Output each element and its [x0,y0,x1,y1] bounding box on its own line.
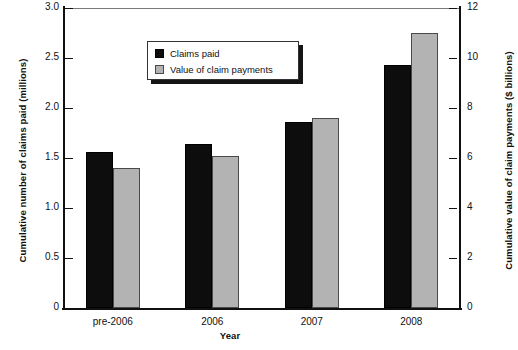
y-axis-left-tick [65,158,73,160]
x-axis-tick-label: 2008 [400,316,422,327]
y-axis-right-tick [449,308,457,310]
y-axis-left-tick [65,208,73,210]
legend-item: Claims paid [155,46,298,61]
plot-top-border [63,8,461,9]
y-axis-right-tick [449,8,457,10]
y-axis-left-tick-label: 1.0 [19,201,59,212]
bar-chart-figure: Cumulative number of claims paid (millio… [0,0,518,350]
x-axis-title: Year [0,330,460,341]
legend-box: Claims paid Value of claim payments [147,41,299,80]
bar-2006-value-of-claim-payments [212,156,239,309]
bar-pre-2006-claims-paid [86,152,113,308]
y-axis-left-tick [65,108,73,110]
y-axis-left-tick-label: 0 [19,301,59,312]
y-axis-right-tick [449,108,457,110]
y-axis-left-tick-label: 2.5 [19,51,59,62]
legend-label-claims-paid: Claims paid [170,48,220,59]
x-axis-line [62,308,462,310]
y-axis-right-tick-label: 6 [467,151,507,162]
y-axis-left-tick-label: 2.0 [19,101,59,112]
y-axis-left-tick [65,258,73,260]
legend-label-value-of-claim-payments: Value of claim payments [170,64,273,75]
legend-swatch-claims-paid [155,49,164,58]
y-axis-right-tick-label: 0 [467,301,507,312]
legend-item: Value of claim payments [155,62,298,77]
y-axis-right-tick-label: 4 [467,201,507,212]
y-axis-right-tick-label: 12 [467,1,507,12]
x-axis-tick-label: 2006 [201,316,223,327]
plot-area: 00.51.01.52.02.53.0 024681012 pre-200620… [63,8,461,308]
y-axis-left-tick [65,8,73,10]
y-axis-left-tick-label: 3.0 [19,1,59,12]
bar-2007-claims-paid [285,122,312,308]
y-axis-right-tick [449,258,457,260]
bar-2006-claims-paid [185,144,212,308]
y-axis-right-tick [449,208,457,210]
legend-swatch-value-of-claim-payments [155,65,164,74]
bar-pre-2006-value-of-claim-payments [113,168,140,308]
bar-2007-value-of-claim-payments [312,118,339,308]
y-axis-right-tick-label: 8 [467,101,507,112]
x-axis-tick-label: 2007 [301,316,323,327]
y-axis-left-tick-label: 1.5 [19,151,59,162]
y-axis-right-tick [449,58,457,60]
y-axis-left-tick-label: 0.5 [19,251,59,262]
y-axis-right-tick-label: 10 [467,51,507,62]
y-axis-left-tick [65,308,73,310]
y-axis-right-tick-label: 2 [467,251,507,262]
x-axis-tick-label: pre-2006 [93,316,133,327]
bar-2008-value-of-claim-payments [411,33,438,308]
y-axis-right-tick [449,158,457,160]
y-axis-right-line [459,6,461,310]
chart-legend: Claims paid Value of claim payments [147,41,299,80]
bar-2008-claims-paid [384,65,411,308]
y-axis-left-tick [65,58,73,60]
